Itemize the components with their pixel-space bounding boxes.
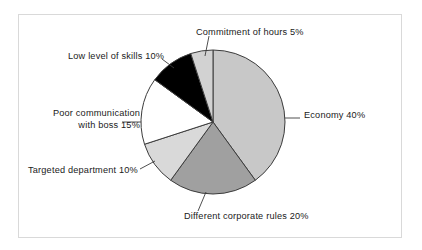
- pie-label-economy: Economy 40%: [304, 110, 365, 122]
- pie-chart-figure: Commitment of hours 5% Low level of skil…: [0, 0, 422, 250]
- leader-line-targeted-department: [140, 161, 155, 169]
- pie-slices: [141, 50, 285, 194]
- pie-label-low-level-of-skills: Low level of skills 10%: [68, 51, 164, 63]
- pie-label-commitment-of-hours: Commitment of hours 5%: [196, 27, 304, 39]
- pie-label-poor-communication-with-boss: Poor communicationwith boss 15%: [44, 108, 140, 131]
- pie-label-poor-communication-line-1: Poor communication: [53, 108, 140, 118]
- pie-label-different-corporate-rules: Different corporate rules 20%: [184, 211, 309, 223]
- pie-label-targeted-department: Targeted department 10%: [28, 165, 138, 177]
- leader-line-different-corporate-rules: [198, 192, 206, 211]
- pie-label-poor-communication-line-2: with boss 15%: [78, 120, 140, 130]
